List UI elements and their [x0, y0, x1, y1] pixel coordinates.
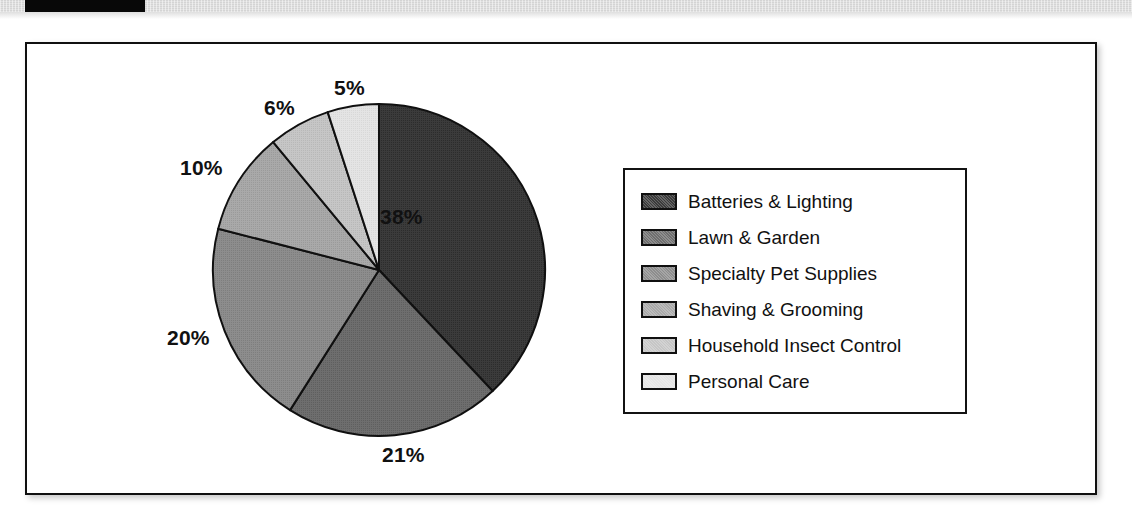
pie-slices: [213, 104, 545, 436]
legend-swatch-icon: [641, 265, 677, 282]
legend-swatch-icon: [641, 229, 677, 246]
legend-swatch-icon: [641, 373, 677, 390]
pie-chart-svg: [211, 102, 547, 438]
scanned-header-band: [0, 0, 1132, 12]
legend-item-label: Specialty Pet Supplies: [688, 264, 877, 283]
legend-item-label: Batteries & Lighting: [688, 192, 853, 211]
redaction-bar: [25, 0, 145, 12]
legend-item-label: Personal Care: [688, 372, 809, 391]
legend: Batteries & LightingLawn & GardenSpecial…: [623, 168, 967, 414]
legend-swatch-icon: [641, 301, 677, 318]
legend-item[interactable]: Specialty Pet Supplies: [641, 255, 953, 291]
pie-label-10: 10%: [180, 157, 223, 178]
legend-item[interactable]: Shaving & Grooming: [641, 291, 953, 327]
pie-label-38: 38%: [380, 206, 423, 227]
pie-label-5: 5%: [334, 77, 365, 98]
legend-item-label: Shaving & Grooming: [688, 300, 863, 319]
legend-item[interactable]: Lawn & Garden: [641, 219, 953, 255]
pie-chart: [211, 102, 547, 438]
legend-item[interactable]: Personal Care: [641, 363, 953, 399]
legend-swatch-icon: [641, 193, 677, 210]
header-band-shadow: [0, 12, 1132, 19]
legend-item-label: Household Insect Control: [688, 336, 901, 355]
pie-label-20: 20%: [167, 327, 210, 348]
pie-label-21: 21%: [382, 444, 425, 465]
legend-swatch-icon: [641, 337, 677, 354]
legend-item[interactable]: Household Insect Control: [641, 327, 953, 363]
legend-item[interactable]: Batteries & Lighting: [641, 183, 953, 219]
chart-frame: 38% 21% 20% 10% 6% 5% Batteries & Lighti…: [25, 42, 1097, 495]
pie-label-6: 6%: [264, 97, 295, 118]
legend-item-label: Lawn & Garden: [688, 228, 820, 247]
header-band-texture: [0, 0, 1132, 12]
